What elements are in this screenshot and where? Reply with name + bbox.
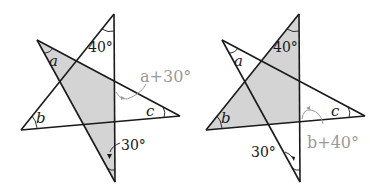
left-label-c: c bbox=[146, 102, 155, 120]
right-label-b: b bbox=[221, 109, 231, 127]
left-label-30: 30° bbox=[121, 137, 146, 153]
left-label-exterior: a+30° bbox=[140, 67, 191, 86]
left-star: a b c 40° 30° a+30° bbox=[21, 14, 191, 182]
diagram-canvas: a b c 40° 30° a+30° a b bbox=[0, 0, 370, 193]
right-label-c: c bbox=[331, 102, 340, 120]
left-exterior-arc bbox=[116, 84, 146, 99]
right-30-arrow-icon bbox=[291, 156, 295, 161]
right-label-40: 40° bbox=[273, 39, 298, 55]
right-star: a b c 40° 30° b+40° bbox=[206, 14, 365, 182]
right-label-30: 30° bbox=[251, 144, 276, 160]
left-label-b: b bbox=[36, 109, 46, 127]
right-exterior-arrow-icon bbox=[306, 106, 310, 110]
left-label-40: 40° bbox=[88, 39, 113, 55]
right-label-exterior: b+40° bbox=[307, 133, 359, 152]
right-label-a: a bbox=[234, 52, 243, 70]
left-label-a: a bbox=[49, 52, 58, 70]
